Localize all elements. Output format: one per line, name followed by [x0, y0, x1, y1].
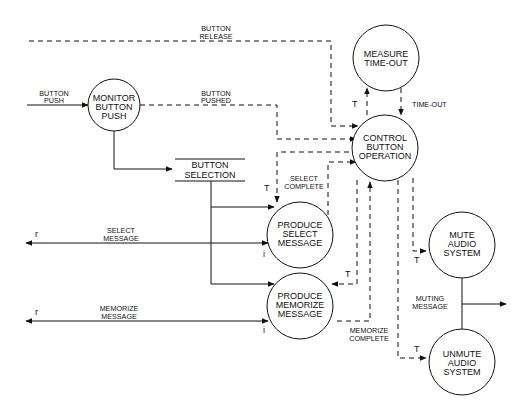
flow-memorize-complete	[337, 182, 370, 321]
process-unmute-audio-system[interactable]: UNMUTE AUDIO SYSTEM	[429, 329, 495, 395]
label-muting-message-2: MESSAGE	[412, 302, 448, 311]
label-button-release-2: RELEASE	[199, 32, 232, 41]
process-produce-select-message[interactable]: PRODUCE SELECT MESSAGE	[267, 202, 333, 268]
flag-trigger-measure: T	[352, 99, 358, 109]
svg-text:TIME-OUT: TIME-OUT	[364, 58, 408, 68]
process-produce-memorize-message[interactable]: PRODUCE MEMORIZE MESSAGE	[267, 273, 333, 339]
svg-text:PUSH: PUSH	[101, 111, 126, 121]
flag-input-select: i	[263, 249, 265, 259]
flag-input-memorize: i	[263, 325, 265, 335]
flag-trigger-unmute: T	[414, 344, 420, 354]
label-select-complete-2: COMPLETE	[284, 182, 324, 191]
flow-button-release	[29, 41, 358, 126]
svg-text:MESSAGE: MESSAGE	[278, 238, 323, 248]
process-measure-time-out[interactable]: MEASURE TIME-OUT	[353, 25, 419, 91]
flow-monitor-to-store	[114, 131, 172, 169]
flag-trigger-memorize: T	[345, 269, 351, 279]
svg-text:SYSTEM: SYSTEM	[443, 367, 480, 377]
svg-text:MESSAGE: MESSAGE	[278, 309, 323, 319]
process-monitor-button-push[interactable]: MONITOR BUTTON PUSH	[88, 79, 140, 131]
diagram-canvas: BUTTON SELECTION MONITOR BUTTON PUSH MEA…	[0, 0, 530, 419]
process-mute-audio-system[interactable]: MUTE AUDIO SYSTEM	[429, 212, 495, 278]
flow-store-to-memorize	[211, 207, 274, 284]
flow-control-to-unmute	[398, 180, 426, 358]
store-label-1: BUTTON	[192, 160, 229, 170]
label-button-pushed-2: PUSHED	[201, 96, 231, 105]
store-label-2: SELECTION	[184, 170, 235, 180]
flow-button-pushed	[140, 105, 356, 139]
label-memorize-message-2: MESSAGE	[101, 312, 137, 321]
flag-return-memorize: r	[35, 307, 38, 317]
flag-trigger-select: T	[264, 183, 270, 193]
flow-control-to-mute	[413, 178, 426, 251]
svg-text:SYSTEM: SYSTEM	[443, 248, 480, 258]
flow-select-complete	[328, 162, 356, 215]
label-memorize-complete-2: COMPLETE	[349, 334, 389, 343]
flag-return-select: r	[35, 229, 38, 239]
flag-trigger-mute: T	[414, 255, 420, 265]
process-control-button-operation[interactable]: CONTROL BUTTON OPERATION	[352, 115, 418, 181]
label-button-push-2: PUSH	[44, 96, 64, 105]
label-select-message-2: MESSAGE	[103, 234, 139, 243]
svg-text:OPERATION: OPERATION	[359, 151, 411, 161]
label-time-out: TIME-OUT	[412, 100, 447, 109]
